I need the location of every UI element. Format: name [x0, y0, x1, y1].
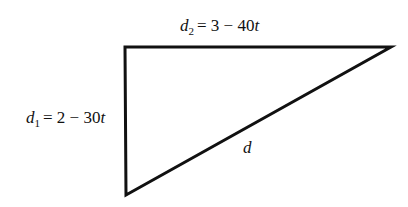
- triangle-diagram: d2= 3 − 40t d1= 2 − 30t d: [0, 0, 408, 207]
- left-side-label: d1= 2 − 30t: [26, 108, 106, 129]
- top-side-label: d2= 3 − 40t: [180, 16, 260, 37]
- right-triangle: [125, 47, 391, 195]
- hypotenuse-label: d: [243, 138, 252, 157]
